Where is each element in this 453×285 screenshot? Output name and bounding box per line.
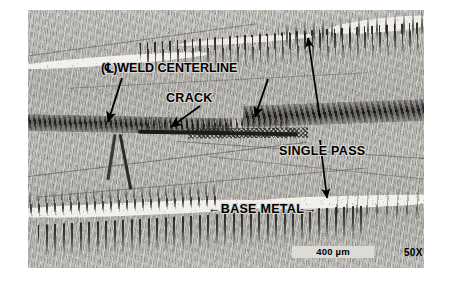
annotation-leader-lines: [0, 0, 453, 285]
leader-centerline-left: [108, 78, 122, 122]
leader-single-pass-lower: [320, 140, 327, 198]
leader-single-pass: [308, 38, 320, 118]
leader-crack: [171, 106, 200, 127]
leader-centerline-right: [255, 79, 268, 117]
micrograph-figure: (℄)WELD CENTERLINE CRACK SINGLE PASS ←BA…: [0, 0, 453, 285]
